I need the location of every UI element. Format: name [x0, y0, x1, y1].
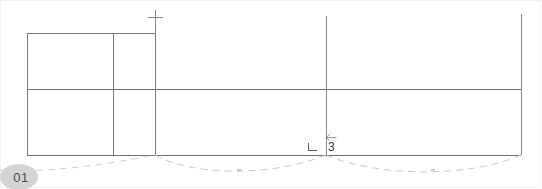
- dashed-arc-right: [326, 155, 521, 172]
- dimension-marker-group: [308, 143, 317, 151]
- wireframe-drawing: [0, 0, 542, 189]
- slide-number-badge[interactable]: 01: [0, 164, 38, 189]
- solid-line-group: [27, 12, 522, 156]
- crosshair-icon: [148, 10, 163, 25]
- node-vertex-marker: [325, 154, 327, 156]
- prime-mark-right: ″: [430, 167, 435, 178]
- dimension-value-label: 3: [328, 141, 335, 153]
- drawing-canvas: 3 ″ ″ 01: [0, 0, 542, 189]
- slide-number-label: 01: [9, 171, 28, 184]
- corner-bracket-icon: [308, 143, 317, 151]
- prime-mark-left: ″: [236, 167, 241, 178]
- dashed-arc-group: [155, 155, 521, 172]
